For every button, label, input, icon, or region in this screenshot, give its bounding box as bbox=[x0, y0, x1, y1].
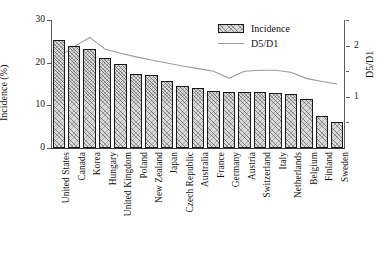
bar-sweden bbox=[331, 122, 343, 148]
x-label-new-zealand: New Zealand bbox=[155, 152, 164, 203]
x-axis-line bbox=[51, 148, 345, 149]
y-axis-left-title: Incidence (%) bbox=[0, 107, 9, 121]
x-label-united-kingdom: United Kingdom bbox=[124, 152, 133, 216]
x-label-korea: Korea bbox=[93, 152, 102, 175]
y-tick-label-left-10: 10 bbox=[13, 101, 45, 111]
x-label-czech-republic: Czech Republic bbox=[186, 152, 195, 213]
bar-hungary bbox=[99, 58, 111, 148]
bar-canada bbox=[68, 46, 80, 148]
y-tick-right-minor-0.5 bbox=[346, 122, 349, 123]
x-label-switzerland: Switzerland bbox=[263, 152, 272, 198]
y-tick-label-left-30: 30 bbox=[13, 15, 45, 25]
bar-netherlands bbox=[285, 94, 297, 148]
x-label-belgium: Belgium bbox=[310, 152, 319, 185]
x-label-hungary: Hungary bbox=[109, 152, 118, 185]
chart-legend: Incidence D5/D1 bbox=[218, 21, 290, 51]
x-label-sweden: Sweden bbox=[341, 152, 350, 182]
chart-figure: 0102030 12 Incidence (%) D5/D1 United St… bbox=[0, 0, 388, 255]
y-tick-label-left-0: 0 bbox=[13, 143, 45, 153]
legend-swatch-incidence bbox=[218, 24, 244, 33]
y-tick-right-minor-1.5 bbox=[346, 71, 349, 72]
bar-australia bbox=[192, 88, 204, 148]
legend-item-d5d1: D5/D1 bbox=[218, 36, 290, 51]
y-tick-right-2 bbox=[346, 46, 350, 47]
x-axis-category-labels: United StatesCanadaKoreaHungaryUnited Ki… bbox=[51, 152, 345, 252]
legend-swatch-d5d1 bbox=[218, 43, 244, 44]
x-label-japan: Japan bbox=[170, 152, 179, 174]
bar-switzerland bbox=[254, 92, 266, 148]
y-axis-right-title: D5/D1 bbox=[364, 51, 375, 78]
bar-czech-republic bbox=[176, 86, 188, 148]
bar-italy bbox=[269, 93, 281, 148]
x-label-germany: Germany bbox=[232, 152, 241, 187]
x-label-italy: Italy bbox=[279, 152, 288, 170]
x-label-canada: Canada bbox=[78, 152, 87, 180]
legend-item-incidence: Incidence bbox=[218, 21, 290, 36]
bar-poland bbox=[130, 74, 142, 148]
plot-area bbox=[51, 20, 345, 148]
y-tick-label-right-2: 2 bbox=[354, 41, 359, 51]
bar-united-states bbox=[53, 40, 65, 148]
x-label-netherlands: Netherlands bbox=[294, 152, 303, 198]
x-label-austria: Austria bbox=[248, 152, 257, 180]
bar-france bbox=[207, 91, 219, 148]
y-tick-label-right-1: 1 bbox=[354, 92, 359, 102]
x-label-france: France bbox=[217, 152, 226, 178]
x-label-poland: Poland bbox=[140, 152, 149, 178]
bar-germany bbox=[223, 92, 235, 148]
y-tick-right-minor-2.5 bbox=[346, 20, 349, 21]
bar-korea bbox=[83, 49, 95, 148]
y-tick-label-left-20: 20 bbox=[13, 58, 45, 68]
bar-belgium bbox=[300, 99, 312, 148]
bar-new-zealand bbox=[145, 75, 157, 148]
y-tick-left-0 bbox=[47, 148, 51, 149]
bar-united-kingdom bbox=[114, 64, 126, 148]
legend-label-incidence: Incidence bbox=[251, 23, 290, 34]
x-label-united-states: United States bbox=[62, 152, 71, 203]
bar-japan bbox=[161, 81, 173, 148]
bar-austria bbox=[238, 92, 250, 148]
bar-finland bbox=[316, 116, 328, 148]
y-tick-right-1 bbox=[346, 97, 350, 98]
x-label-finland: Finland bbox=[325, 152, 334, 181]
x-label-australia: Australia bbox=[201, 152, 210, 187]
legend-label-d5d1: D5/D1 bbox=[251, 38, 278, 49]
